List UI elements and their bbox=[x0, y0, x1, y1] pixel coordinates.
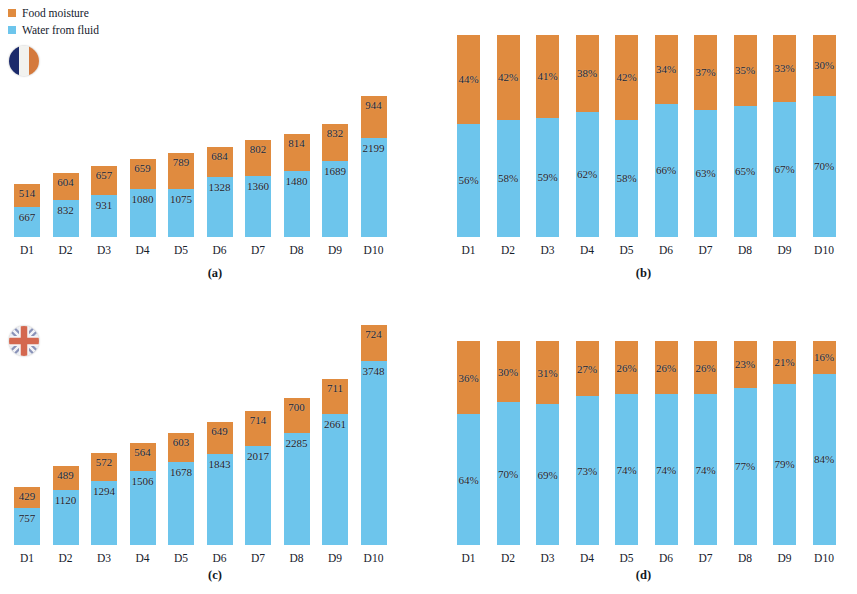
stacked-bar-c-d10: 7243748 bbox=[361, 325, 387, 545]
bar-value-label-food-moisture: 42% bbox=[498, 72, 518, 83]
bar-segment-water-from-fluid: 74% bbox=[615, 394, 638, 545]
bar-value-label-water-from-fluid: 79% bbox=[774, 459, 794, 470]
bar-value-label-water-from-fluid: 2199 bbox=[363, 143, 385, 154]
bar-value-label-water-from-fluid: 1689 bbox=[324, 166, 346, 177]
panel-caption-b: (b) bbox=[430, 266, 857, 281]
plot-area-b: 44%56%D142%58%D241%59%D338%62%D442%58%D5… bbox=[430, 0, 857, 295]
bar-segment-water-from-fluid: 1689 bbox=[322, 161, 348, 237]
stacked-bar-b-d4: 38%62% bbox=[576, 35, 599, 237]
bar-value-label-water-from-fluid: 1080 bbox=[132, 194, 154, 205]
bar-value-label-water-from-fluid: 832 bbox=[57, 205, 74, 216]
bar-segment-water-from-fluid: 1480 bbox=[284, 171, 310, 237]
bar-value-label-food-moisture: 35% bbox=[735, 65, 755, 76]
bar-segment-food-moisture: 27% bbox=[576, 341, 599, 396]
x-axis-label-d6: D6 bbox=[201, 244, 239, 256]
x-axis-label-d2: D2 bbox=[491, 244, 526, 256]
bar-value-label-water-from-fluid: 2017 bbox=[247, 451, 269, 462]
stacked-bar-a-d4: 6591080 bbox=[130, 159, 156, 237]
x-axis-label-d9: D9 bbox=[316, 244, 354, 256]
bar-value-label-food-moisture: 724 bbox=[365, 329, 382, 340]
bar-value-label-food-moisture: 700 bbox=[288, 402, 305, 413]
stacked-bar-c-d3: 5721294 bbox=[91, 453, 117, 545]
plot-area-d: 36%64%D130%70%D231%69%D327%73%D426%74%D5… bbox=[430, 296, 857, 594]
bar-value-label-food-moisture: 802 bbox=[250, 144, 267, 155]
bar-segment-water-from-fluid: 67% bbox=[773, 102, 796, 237]
panel-caption-c: (c) bbox=[0, 568, 430, 583]
bar-value-label-food-moisture: 514 bbox=[19, 188, 36, 199]
bar-segment-food-moisture: 16% bbox=[813, 341, 836, 374]
bar-value-label-water-from-fluid: 62% bbox=[577, 169, 597, 180]
bar-segment-food-moisture: 604 bbox=[53, 173, 79, 200]
bar-segment-food-moisture: 724 bbox=[361, 325, 387, 361]
bar-segment-water-from-fluid: 931 bbox=[91, 195, 117, 237]
bar-value-label-food-moisture: 489 bbox=[57, 470, 74, 481]
x-axis-label-d3: D3 bbox=[85, 244, 123, 256]
bar-segment-water-from-fluid: 77% bbox=[734, 388, 757, 545]
bar-value-label-food-moisture: 30% bbox=[814, 60, 834, 71]
stacked-bar-c-d1: 429757 bbox=[14, 487, 40, 545]
bar-segment-food-moisture: 514 bbox=[14, 184, 40, 207]
chart-panel-a: 514667D1604832D2657931D36591080D47891075… bbox=[0, 0, 430, 295]
bar-segment-water-from-fluid: 63% bbox=[694, 110, 717, 237]
bar-value-label-water-from-fluid: 1294 bbox=[93, 486, 115, 497]
bar-segment-water-from-fluid: 56% bbox=[457, 124, 480, 237]
bar-value-label-water-from-fluid: 1506 bbox=[132, 476, 154, 487]
bar-segment-food-moisture: 30% bbox=[813, 35, 836, 96]
x-axis-label-d4: D4 bbox=[124, 244, 162, 256]
bar-segment-food-moisture: 603 bbox=[168, 433, 194, 463]
bar-value-label-food-moisture: 34% bbox=[656, 64, 676, 75]
x-axis-label-d8: D8 bbox=[728, 244, 763, 256]
stacked-bar-b-d6: 34%66% bbox=[655, 35, 678, 237]
x-axis-label-d3: D3 bbox=[530, 552, 565, 564]
bar-segment-water-from-fluid: 69% bbox=[536, 404, 559, 545]
bar-value-label-water-from-fluid: 66% bbox=[656, 165, 676, 176]
stacked-bar-d-d5: 26%74% bbox=[615, 341, 638, 545]
x-axis-label-d8: D8 bbox=[278, 552, 316, 564]
stacked-bar-c-d6: 6491843 bbox=[207, 422, 233, 545]
bar-segment-water-from-fluid: 84% bbox=[813, 374, 836, 545]
stacked-bar-c-d8: 7002285 bbox=[284, 398, 310, 545]
bar-value-label-food-moisture: 564 bbox=[134, 447, 151, 458]
bar-value-label-water-from-fluid: 67% bbox=[774, 164, 794, 175]
bar-value-label-food-moisture: 26% bbox=[616, 363, 636, 374]
bar-value-label-water-from-fluid: 74% bbox=[656, 465, 676, 476]
bar-segment-water-from-fluid: 70% bbox=[497, 402, 520, 545]
bar-segment-water-from-fluid: 73% bbox=[576, 396, 599, 545]
bar-segment-water-from-fluid: 74% bbox=[655, 394, 678, 545]
bar-value-label-water-from-fluid: 2661 bbox=[324, 419, 346, 430]
bar-value-label-water-from-fluid: 74% bbox=[695, 465, 715, 476]
bar-segment-food-moisture: 23% bbox=[734, 341, 757, 388]
bar-value-label-water-from-fluid: 73% bbox=[577, 466, 597, 477]
bar-segment-food-moisture: 814 bbox=[284, 134, 310, 171]
bar-value-label-water-from-fluid: 58% bbox=[616, 173, 636, 184]
bar-segment-water-from-fluid: 64% bbox=[457, 414, 480, 545]
bar-value-label-food-moisture: 16% bbox=[814, 352, 834, 363]
x-axis-label-d7: D7 bbox=[688, 244, 723, 256]
plot-area-c: 429757D14891120D25721294D35641506D460316… bbox=[0, 296, 430, 594]
bar-value-label-water-from-fluid: 1075 bbox=[170, 194, 192, 205]
stacked-bar-d-d2: 30%70% bbox=[497, 341, 520, 545]
bar-segment-food-moisture: 36% bbox=[457, 341, 480, 414]
bar-segment-food-moisture: 26% bbox=[694, 341, 717, 394]
stacked-bar-d-d1: 36%64% bbox=[457, 341, 480, 545]
bar-value-label-water-from-fluid: 69% bbox=[537, 470, 557, 481]
bar-value-label-water-from-fluid: 1678 bbox=[170, 467, 192, 478]
stacked-bar-b-d10: 30%70% bbox=[813, 35, 836, 237]
x-axis-label-d1: D1 bbox=[451, 552, 486, 564]
x-axis-label-d7: D7 bbox=[239, 244, 277, 256]
bar-value-label-food-moisture: 31% bbox=[537, 368, 557, 379]
bar-segment-food-moisture: 35% bbox=[734, 35, 757, 106]
bar-segment-water-from-fluid: 1080 bbox=[130, 189, 156, 237]
bar-segment-food-moisture: 429 bbox=[14, 487, 40, 508]
chart-panel-b: 44%56%D142%58%D241%59%D338%62%D442%58%D5… bbox=[430, 0, 857, 295]
stacked-bar-a-d10: 9442199 bbox=[361, 96, 387, 237]
bar-value-label-food-moisture: 659 bbox=[134, 163, 151, 174]
x-axis-label-d4: D4 bbox=[570, 244, 605, 256]
bar-value-label-food-moisture: 36% bbox=[458, 373, 478, 384]
bar-value-label-food-moisture: 649 bbox=[211, 426, 228, 437]
bar-segment-water-from-fluid: 65% bbox=[734, 106, 757, 237]
bar-value-label-water-from-fluid: 1843 bbox=[209, 459, 231, 470]
bar-value-label-food-moisture: 26% bbox=[656, 363, 676, 374]
stacked-bar-d-d10: 16%84% bbox=[813, 341, 836, 545]
x-axis-label-d9: D9 bbox=[767, 244, 802, 256]
